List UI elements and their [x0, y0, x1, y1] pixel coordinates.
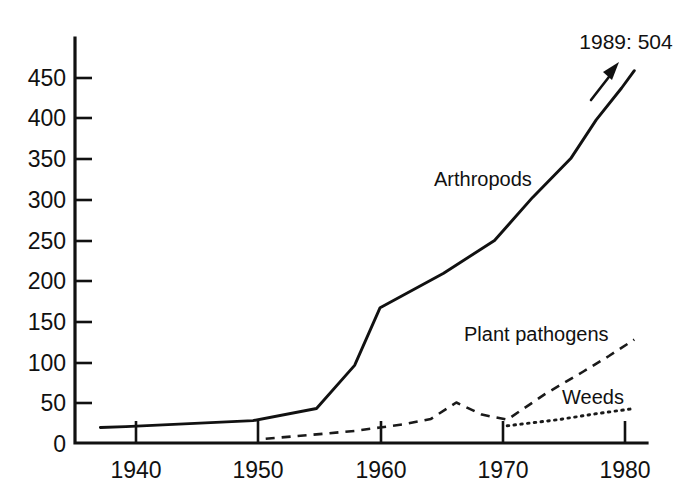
y-tick-label-300: 300: [28, 187, 66, 213]
x-tick-label-1950: 1950: [232, 457, 283, 483]
x-tick-label-1960: 1960: [355, 457, 406, 483]
y-tick-label-450: 450: [28, 65, 66, 91]
y-tick-label-100: 100: [28, 350, 66, 376]
y-axis-ticks: [75, 78, 92, 403]
y-tick-label-250: 250: [28, 228, 66, 254]
y-tick-label-200: 200: [28, 268, 66, 294]
y-axis-tick-labels: 450 400 350 300 250 200 150 100 50 0: [28, 65, 66, 457]
series-label-plant-pathogens: Plant pathogens: [464, 323, 609, 345]
chart-container: 450 400 350 300 250 200 150 100 50 0 194…: [0, 0, 686, 496]
pesticide-resistance-line-chart: 450 400 350 300 250 200 150 100 50 0 194…: [0, 0, 686, 496]
y-tick-label-350: 350: [28, 146, 66, 172]
series-line-arthropods: [100, 71, 634, 428]
y-tick-label-0: 0: [53, 431, 66, 457]
series-label-arthropods: Arthropods: [434, 168, 532, 190]
series-line-weeds: [507, 409, 634, 426]
y-tick-label-400: 400: [28, 105, 66, 131]
x-tick-label-1980: 1980: [599, 457, 650, 483]
x-axis-tick-labels: 1940 1950 1960 1970 1980: [110, 457, 650, 483]
series-label-weeds: Weeds: [562, 386, 624, 408]
x-axis-ticks: [136, 421, 625, 443]
chart-axes: [75, 38, 647, 443]
y-tick-label-50: 50: [40, 390, 66, 416]
annotation-1989-504: 1989: 504: [579, 30, 673, 53]
y-tick-label-150: 150: [28, 309, 66, 335]
x-tick-label-1940: 1940: [110, 457, 161, 483]
x-tick-label-1970: 1970: [477, 457, 528, 483]
